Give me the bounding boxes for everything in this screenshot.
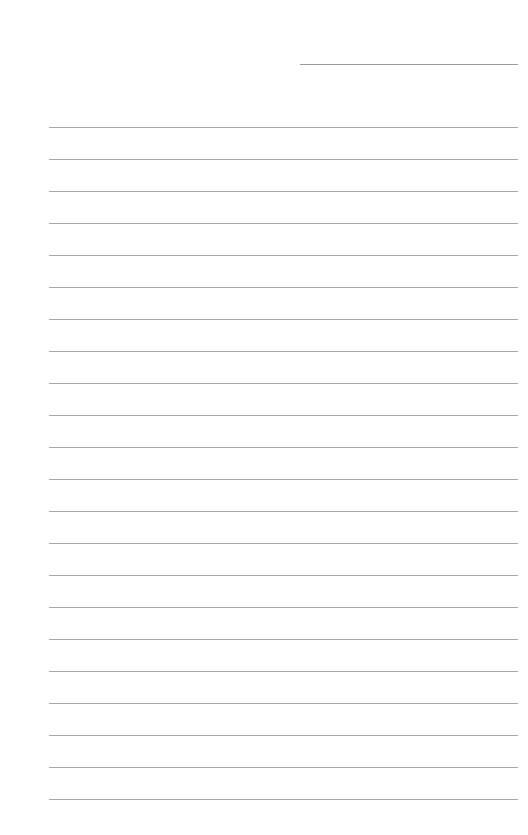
ruled-line	[49, 287, 518, 288]
ruled-line	[49, 703, 518, 704]
ruled-line	[49, 351, 518, 352]
ruled-line	[49, 223, 518, 224]
ruled-line	[49, 639, 518, 640]
ruled-line	[49, 383, 518, 384]
ruled-line	[49, 799, 518, 800]
ruled-line	[49, 671, 518, 672]
ruled-line	[49, 607, 518, 608]
ruled-line	[49, 735, 518, 736]
ruled-line	[49, 543, 518, 544]
ruled-line	[49, 511, 518, 512]
ruled-line	[49, 767, 518, 768]
ruled-line	[49, 159, 518, 160]
ruled-line	[49, 191, 518, 192]
ruled-line	[49, 447, 518, 448]
ruled-line	[49, 319, 518, 320]
lined-paper-page	[0, 0, 528, 835]
ruled-line	[49, 127, 518, 128]
ruled-line	[49, 415, 518, 416]
ruled-line	[49, 479, 518, 480]
header-blank-line	[300, 64, 518, 65]
ruled-line	[49, 575, 518, 576]
ruled-line	[49, 255, 518, 256]
